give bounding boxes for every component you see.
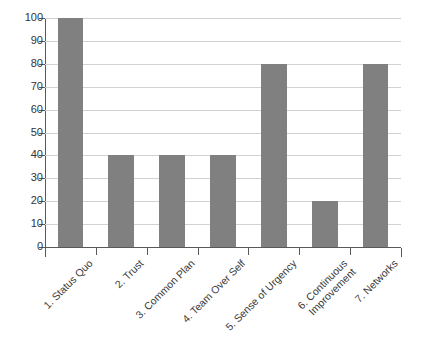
- x-axis-label-line: 7. Networks: [352, 257, 400, 305]
- y-axis-label: 10: [31, 218, 43, 229]
- gridline: [45, 133, 401, 134]
- x-axis-label: 6. ContinuousImprovement: [295, 257, 358, 320]
- gridline: [45, 18, 401, 19]
- x-axis-tick: [147, 248, 148, 255]
- bar: [58, 18, 84, 247]
- gridline: [45, 41, 401, 42]
- y-axis-label: 60: [31, 104, 43, 115]
- x-axis-tick: [96, 248, 97, 255]
- y-axis-label: 30: [31, 172, 43, 183]
- bar: [261, 64, 287, 247]
- y-axis-label: 100: [25, 12, 43, 23]
- x-axis-tick: [45, 248, 46, 257]
- x-axis-tick: [299, 248, 300, 255]
- gridline: [45, 87, 401, 88]
- x-axis-label-line: 2. Trust: [113, 257, 146, 290]
- bar-chart: 0102030405060708090100 1. Status Quo2. T…: [0, 0, 422, 357]
- y-axis-label: 90: [31, 35, 43, 46]
- x-axis-tick: [248, 248, 249, 255]
- y-axis-label: 40: [31, 149, 43, 160]
- y-axis-label: 80: [31, 58, 43, 69]
- y-axis-label: 50: [31, 127, 43, 138]
- y-axis-label: 70: [31, 81, 43, 92]
- bar: [108, 155, 134, 247]
- x-axis-tick: [350, 248, 351, 255]
- bar: [210, 155, 236, 247]
- bar: [363, 64, 389, 247]
- y-axis-label: 20: [31, 195, 43, 206]
- x-axis-label: 1. Status Quo: [41, 257, 95, 311]
- plot-area: [45, 18, 401, 247]
- x-axis-label-line: 1. Status Quo: [41, 257, 95, 311]
- y-axis-label: 0: [37, 241, 43, 252]
- gridline: [45, 110, 401, 111]
- gridline: [45, 247, 401, 248]
- x-axis-tick: [198, 248, 199, 255]
- bar: [312, 201, 338, 247]
- gridline: [45, 64, 401, 65]
- bar: [159, 155, 185, 247]
- x-axis-tick: [401, 248, 402, 257]
- x-axis-label: 2. Trust: [113, 257, 146, 290]
- x-axis-label: 7. Networks: [352, 257, 400, 305]
